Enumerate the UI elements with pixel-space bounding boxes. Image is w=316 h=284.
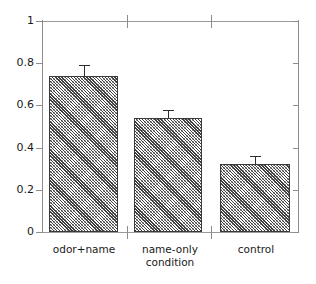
error-bar-cap bbox=[163, 110, 174, 111]
y-axis-tick-label: 0 bbox=[27, 226, 34, 237]
x-axis-category-label: odor+name bbox=[38, 243, 130, 256]
y-axis-tick-label: 0.4 bbox=[17, 142, 35, 153]
error-bar-line bbox=[84, 65, 85, 76]
y-axis-tick-label: 0.8 bbox=[17, 57, 35, 68]
y-axis-tick-label: 0.2 bbox=[17, 184, 35, 195]
bottom-axis-line bbox=[42, 232, 299, 233]
y-axis-tick-label: 1 bbox=[27, 15, 34, 26]
bar bbox=[49, 76, 118, 232]
bar bbox=[134, 118, 202, 232]
plot-area bbox=[42, 21, 299, 232]
bar bbox=[220, 164, 290, 232]
bar-chart: 10.80.60.40.20 odor+namename-only condit… bbox=[0, 0, 316, 284]
y-axis-tick-right bbox=[293, 232, 299, 233]
error-bar-line bbox=[168, 110, 169, 118]
error-bar-line bbox=[255, 156, 256, 164]
x-axis-category-label: name-only condition bbox=[124, 243, 216, 269]
error-bar-cap bbox=[79, 65, 90, 66]
x-axis-category-label: control bbox=[210, 243, 302, 256]
y-axis-tick bbox=[36, 232, 42, 233]
error-bar-cap bbox=[250, 156, 261, 157]
y-axis-tick-label: 0.6 bbox=[17, 99, 35, 110]
